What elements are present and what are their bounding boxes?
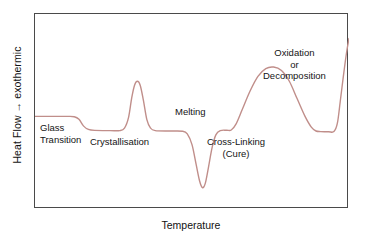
annotation-crystallisation: Crystallisation [90, 136, 149, 148]
y-axis-label: Heat Flow → exothermic [11, 46, 23, 163]
y-axis-label-container: Heat Flow → exothermic [0, 0, 34, 210]
plot-area: Glass Transition Crystallisation Melting… [34, 13, 348, 208]
x-axis-label: Temperature [34, 219, 348, 231]
annotation-melting: Melting [175, 106, 206, 118]
annotation-oxidation-decomposition: Oxidation or Decomposition [263, 47, 326, 82]
annotation-cross-linking: Cross-Linking (Cure) [207, 136, 265, 159]
annotation-glass-transition: Glass Transition [40, 122, 81, 145]
dsc-thermogram-figure: Heat Flow → exothermic Glass Transition … [0, 0, 365, 246]
